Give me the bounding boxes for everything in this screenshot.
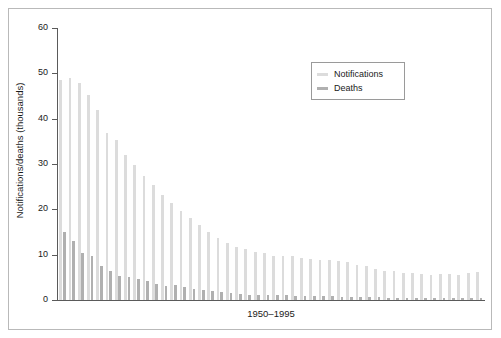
bar-deaths [322, 296, 325, 300]
bar-notifications [198, 225, 201, 300]
bar-group [215, 28, 224, 300]
bar-notifications [282, 256, 285, 300]
bar-deaths [276, 295, 279, 300]
bar-notifications [272, 256, 275, 300]
bar-deaths [91, 256, 94, 300]
bar-group [114, 28, 123, 300]
bar-notifications [189, 218, 192, 300]
bar-deaths [341, 297, 344, 300]
bar-notifications [217, 238, 220, 300]
bar-group [419, 28, 428, 300]
bar-group [151, 28, 160, 300]
bar-deaths [359, 297, 362, 300]
bar-group [67, 28, 76, 300]
bar-notifications [457, 275, 460, 300]
bar-notifications [124, 155, 127, 300]
bar-deaths [461, 298, 464, 300]
bar-group [123, 28, 132, 300]
bar-deaths [128, 277, 131, 300]
bar-group [447, 28, 456, 300]
bar-deaths [396, 298, 399, 300]
bar-deaths [452, 298, 455, 300]
bar-deaths [220, 292, 223, 300]
y-tick-label-wrap: 60 [20, 23, 48, 33]
y-tick-mark [52, 164, 57, 165]
bar-deaths [146, 281, 149, 300]
bar-notifications [244, 249, 247, 300]
bar-deaths [257, 295, 260, 300]
bar-group [178, 28, 187, 300]
bar-series-container [58, 28, 484, 300]
bar-group [271, 28, 280, 300]
bar-group [290, 28, 299, 300]
legend-label-deaths: Deaths [334, 84, 363, 93]
bar-notifications [346, 262, 349, 300]
bar-group [438, 28, 447, 300]
bar-notifications [78, 83, 81, 300]
bar-notifications [180, 211, 183, 300]
bar-notifications [226, 243, 229, 300]
bar-group [299, 28, 308, 300]
bar-notifications [152, 185, 155, 300]
bar-group [428, 28, 437, 300]
bar-group [243, 28, 252, 300]
bar-deaths [350, 297, 353, 300]
bar-notifications [430, 275, 433, 300]
bar-group [475, 28, 484, 300]
x-axis-title: 1950–1995 [58, 308, 484, 319]
bar-deaths [230, 293, 233, 300]
bar-notifications [411, 273, 414, 300]
bar-notifications [476, 272, 479, 300]
bar-group [456, 28, 465, 300]
chart-legend: Notifications Deaths [311, 62, 405, 100]
bar-deaths [202, 290, 205, 300]
bar-group [141, 28, 150, 300]
bar-notifications [207, 232, 210, 300]
bar-deaths [63, 232, 66, 300]
y-tick-mark [52, 28, 57, 29]
bar-notifications [133, 165, 136, 300]
bar-group [160, 28, 169, 300]
bar-deaths [155, 284, 158, 300]
bar-deaths [100, 266, 103, 300]
bar-notifications [309, 259, 312, 300]
y-tick-mark [52, 73, 57, 74]
bar-deaths [211, 291, 214, 300]
bar-deaths [424, 298, 427, 300]
bar-notifications [356, 265, 359, 300]
bar-deaths [137, 279, 140, 300]
bar-deaths [193, 289, 196, 300]
bar-notifications [161, 195, 164, 300]
bar-deaths [285, 295, 288, 300]
bar-notifications [170, 203, 173, 300]
bar-group [169, 28, 178, 300]
bar-deaths [81, 253, 84, 300]
bar-group [95, 28, 104, 300]
bar-group [262, 28, 271, 300]
bar-group [280, 28, 289, 300]
bar-deaths [443, 298, 446, 300]
bar-notifications [87, 95, 90, 300]
bar-deaths [72, 241, 75, 300]
bar-deaths [267, 295, 270, 300]
bar-deaths [331, 296, 334, 300]
bar-deaths [174, 285, 177, 300]
bar-notifications [59, 80, 62, 300]
bar-deaths [433, 298, 436, 300]
bar-notifications [143, 176, 146, 300]
bar-group [188, 28, 197, 300]
legend-label-notifications: Notifications [334, 70, 383, 79]
bar-notifications [106, 133, 109, 300]
bar-deaths [118, 276, 121, 300]
bar-deaths [165, 286, 168, 301]
bar-notifications [300, 258, 303, 300]
y-tick-label-wrap: 0 [20, 295, 48, 305]
y-tick-label: 60 [20, 23, 48, 32]
legend-swatch-deaths [317, 87, 328, 90]
bar-notifications [254, 252, 257, 300]
y-tick-mark [52, 300, 57, 301]
bar-notifications [337, 261, 340, 300]
bar-deaths [183, 287, 186, 300]
bar-notifications [291, 256, 294, 300]
bar-notifications [467, 273, 470, 300]
